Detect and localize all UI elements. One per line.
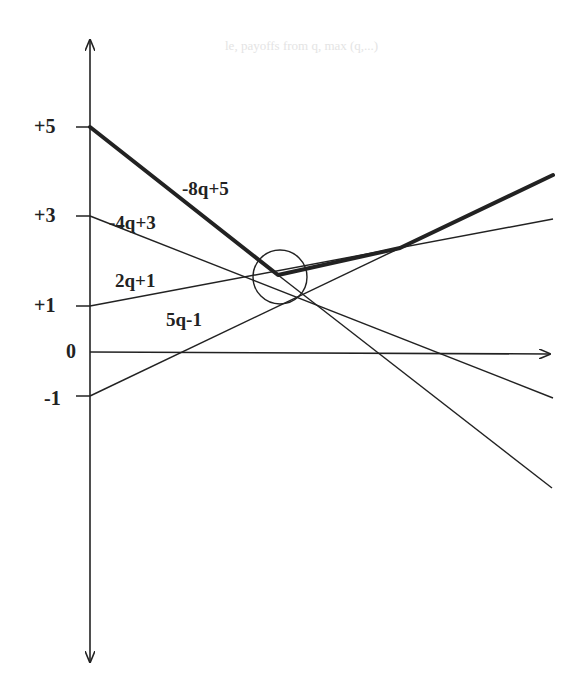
diagram-canvas [0, 0, 588, 698]
label-2q-plus1: 2q+1 [115, 271, 155, 290]
line-2q-plus1 [90, 219, 553, 306]
line-neg4q-plus3 [90, 216, 553, 398]
y-tick-label-minus1: -1 [44, 388, 61, 408]
upper-envelope [90, 127, 553, 275]
y-tick-label-zero: 0 [66, 341, 76, 361]
y-tick-label-plus5: +5 [34, 116, 55, 136]
y-tick-label-plus1: +1 [34, 295, 55, 315]
label-5q-minus1: 5q-1 [166, 310, 202, 329]
label-neg4q-plus3: -4q+3 [109, 213, 156, 232]
y-tick-label-plus3: +3 [34, 205, 55, 225]
y-tick-marks [76, 127, 90, 396]
x-axis [90, 352, 550, 354]
label-neg8q-plus5: -8q+5 [182, 179, 229, 198]
